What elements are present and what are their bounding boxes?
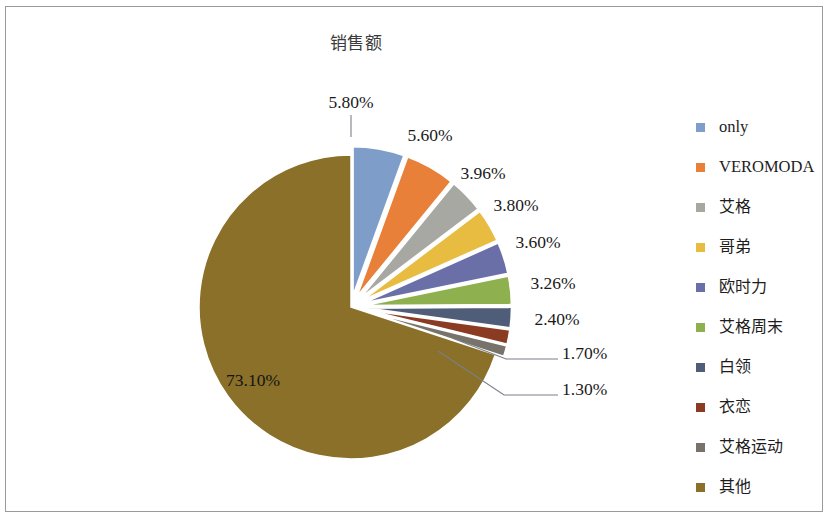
- pie-slice-label: 73.10%: [226, 370, 280, 390]
- legend-item[interactable]: VEROMODA: [696, 147, 830, 187]
- legend-color-swatch: [696, 323, 705, 332]
- legend: onlyVEROMODA艾格哥弟欧时力艾格周末白领衣恋艾格运动其他: [696, 107, 830, 507]
- legend-item-label: 白领: [719, 359, 751, 375]
- legend-item[interactable]: 艾格运动: [696, 427, 830, 467]
- legend-color-swatch: [696, 203, 705, 212]
- legend-item-label: 艾格运动: [719, 439, 783, 455]
- pie-slice-label: 3.26%: [530, 273, 575, 293]
- legend-color-swatch: [696, 443, 705, 452]
- legend-color-swatch: [696, 483, 705, 492]
- legend-item[interactable]: 哥弟: [696, 227, 830, 267]
- pie-slice-label: 3.96%: [460, 163, 505, 183]
- pie-slice-label: 1.30%: [562, 379, 607, 399]
- legend-color-swatch: [696, 283, 705, 292]
- legend-item[interactable]: 艾格: [696, 187, 830, 227]
- pie-slice-label: 3.80%: [493, 195, 538, 215]
- legend-item-label: 艾格: [719, 199, 751, 215]
- legend-item-label: 衣恋: [719, 399, 751, 415]
- legend-item[interactable]: only: [696, 107, 830, 147]
- legend-item[interactable]: 白领: [696, 347, 830, 387]
- pie-slices: [199, 146, 512, 459]
- legend-item-label: 欧时力: [719, 279, 767, 295]
- legend-item-label: only: [719, 119, 748, 136]
- pie-slice-label: 1.70%: [562, 343, 607, 363]
- pie-chart-plot: 5.80%5.60%3.96%3.80%3.60%3.26%2.40%1.70%…: [6, 7, 706, 513]
- legend-item-label: 哥弟: [719, 239, 751, 255]
- legend-item-label: 艾格周末: [719, 319, 783, 335]
- legend-item[interactable]: 艾格周末: [696, 307, 830, 347]
- legend-item[interactable]: 欧时力: [696, 267, 830, 307]
- pie-slice-label: 5.60%: [407, 125, 452, 145]
- legend-color-swatch: [696, 403, 705, 412]
- chart-frame: 销售额 5.80%5.60%3.96%3.80%3.60%3.26%2.40%1…: [5, 6, 823, 512]
- pie-slice-label: 2.40%: [534, 309, 579, 329]
- legend-color-swatch: [696, 243, 705, 252]
- legend-item[interactable]: 其他: [696, 467, 830, 507]
- pie-slice-label: 3.60%: [515, 232, 560, 252]
- legend-item-label: 其他: [719, 479, 751, 495]
- legend-item[interactable]: 衣恋: [696, 387, 830, 427]
- legend-color-swatch: [696, 363, 705, 372]
- legend-color-swatch: [696, 163, 705, 172]
- pie-slice-label: 5.80%: [328, 92, 373, 112]
- legend-color-swatch: [696, 123, 705, 132]
- legend-item-label: VEROMODA: [719, 159, 814, 176]
